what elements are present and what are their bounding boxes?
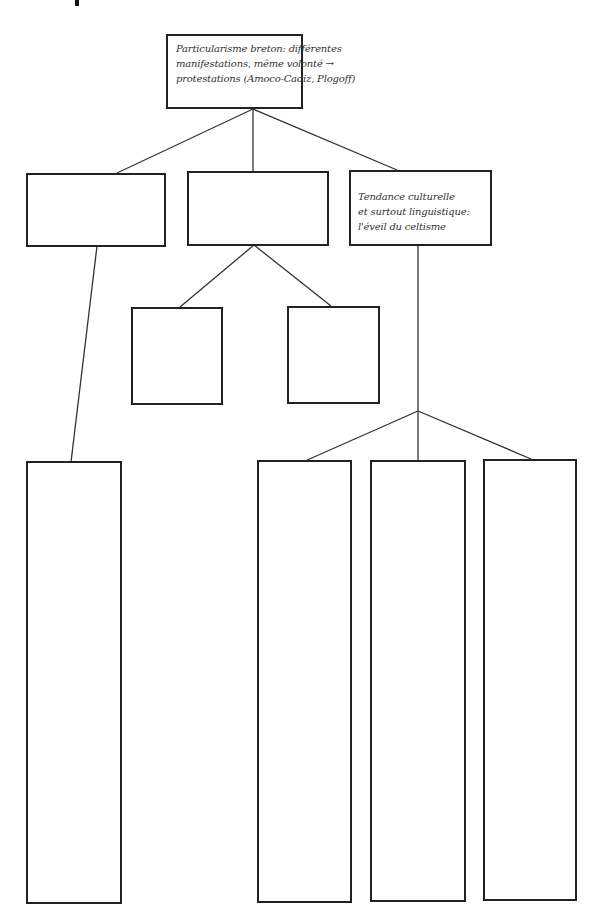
- root-text-line-1: Particularisme breton: différentes: [176, 41, 301, 56]
- root-text-line-2: manifestations, même volonté →: [176, 56, 301, 71]
- root-node: Particularisme breton: différentes manif…: [166, 34, 303, 109]
- node-left-a: [26, 461, 122, 904]
- node-middle-a: [131, 307, 223, 405]
- right-text-line-3: l'éveil du celtisme: [358, 219, 490, 234]
- root-text-line-3: protestations (Amoco-Cadiz, Plogoff): [176, 71, 301, 86]
- node-right: Tendance culturelle et surtout linguisti…: [349, 170, 492, 246]
- node-left: [26, 173, 166, 247]
- node-middle-b: [287, 306, 380, 404]
- node-right-b: [370, 460, 466, 902]
- node-right-c: [483, 459, 577, 901]
- node-middle: [187, 171, 329, 246]
- node-right-a: [257, 460, 352, 903]
- right-text-line-1: Tendance culturelle: [358, 189, 490, 204]
- right-text-line-2: et surtout linguistique:: [358, 204, 490, 219]
